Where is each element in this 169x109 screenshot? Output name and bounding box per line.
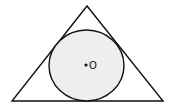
- incircle-diagram: O: [0, 0, 169, 109]
- center-point: [84, 63, 87, 66]
- center-label: O: [89, 60, 97, 71]
